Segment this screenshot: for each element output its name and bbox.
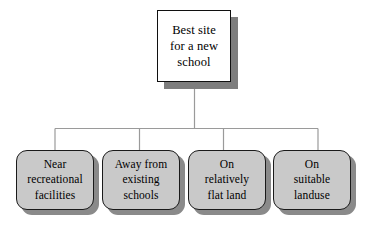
- child-node-2[interactable]: Away from existing schools: [102, 150, 180, 210]
- child-node-2-label: Away from existing schools: [112, 157, 171, 203]
- child-node-4[interactable]: On suitable landuse: [273, 150, 351, 210]
- child-node-2-line-2: existing: [122, 173, 159, 185]
- root-node-line-3: school: [177, 55, 210, 69]
- child-node-2-line-1: Away from: [115, 158, 168, 170]
- child-node-3-line-1: On: [220, 158, 234, 170]
- child-node-3-label: On relatively flat land: [202, 157, 252, 203]
- child-node-2-line-3: schools: [123, 189, 158, 201]
- child-node-4-line-1: On: [305, 158, 319, 170]
- child-node-3-line-3: flat land: [208, 189, 247, 201]
- child-node-4-label: On suitable landuse: [291, 157, 334, 203]
- child-node-1-label: Near recreational facilities: [24, 157, 85, 203]
- child-node-4-line-2: suitable: [294, 173, 331, 185]
- child-node-3[interactable]: On relatively flat land: [188, 150, 266, 210]
- child-node-1-line-2: recreational: [27, 173, 82, 185]
- root-node[interactable]: Best site for a new school: [157, 10, 231, 82]
- child-node-1-line-3: facilities: [35, 189, 76, 201]
- root-node-label: Best site for a new school: [166, 22, 222, 71]
- diagram-canvas: Best site for a new school Near recreati…: [0, 0, 367, 241]
- child-node-1-line-1: Near: [44, 158, 67, 170]
- child-node-3-line-2: relatively: [205, 173, 249, 185]
- child-node-4-line-3: landuse: [294, 189, 330, 201]
- child-node-1[interactable]: Near recreational facilities: [16, 150, 94, 210]
- root-node-line-2: for a new: [170, 39, 218, 53]
- root-node-line-1: Best site: [172, 23, 216, 37]
